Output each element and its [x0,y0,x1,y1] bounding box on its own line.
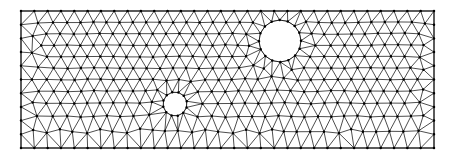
mesh-figure [0,0,453,161]
mesh-canvas [0,0,453,161]
